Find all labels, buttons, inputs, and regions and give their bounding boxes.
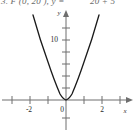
y-axis-arrow-icon xyxy=(63,10,69,17)
y-axis-label: y xyxy=(56,9,61,17)
coordinate-plot: -2 0 2 10 x y xyxy=(0,0,134,134)
y-tick-label-10: 10 xyxy=(51,35,59,44)
x-tick-label-neg2: -2 xyxy=(26,105,32,114)
origin-label: 0 xyxy=(60,105,64,114)
x-axis-label: x xyxy=(122,107,127,115)
parabola-figure: 3. F (0, 20 ), y = 20 + 5 xyxy=(0,0,134,134)
x-axis-arrow-icon xyxy=(126,97,133,103)
x-tick-label-2: 2 xyxy=(100,105,104,114)
